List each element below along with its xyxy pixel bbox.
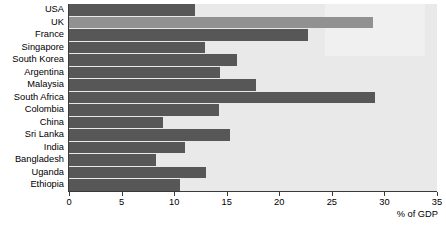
x-tick-label-10: 10 [169,197,179,207]
bar-colombia [69,104,219,116]
bar-row [69,179,437,191]
x-tick-label-30: 30 [379,197,389,207]
bar-sri-lanka [69,129,230,141]
bar-france [69,29,308,41]
x-tick-10 [174,192,175,196]
x-tick-30 [384,192,385,196]
y-label-singapore: Singapore [0,42,64,54]
bar-malaysia [69,79,256,91]
bar-uk [69,17,373,29]
bar-india [69,142,185,154]
bar-south-korea [69,54,237,66]
bar-row [69,67,437,79]
bar-row [69,117,437,129]
x-tick-0 [69,192,70,196]
bar-row [69,4,437,16]
y-label-malaysia: Malaysia [0,79,64,91]
bar-row [69,154,437,166]
bar-uganda [69,167,206,179]
y-axis-line [68,4,69,192]
y-label-china: China [0,117,64,129]
y-label-colombia: Colombia [0,104,64,116]
bar-row [69,167,437,179]
y-label-india: India [0,142,64,154]
x-axis-title: % of GDP [397,209,438,219]
bar-bangladesh [69,154,156,166]
x-tick-label-0: 0 [66,197,71,207]
y-label-argentina: Argentina [0,67,64,79]
bar-row [69,54,437,66]
bar-row [69,92,437,104]
x-axis-line [69,191,437,192]
y-axis-category-labels: USAUKFranceSingaporeSouth KoreaArgentina… [0,4,64,191]
x-tick-20 [279,192,280,196]
bar-row [69,42,437,54]
bar-china [69,117,163,129]
y-label-ethiopia: Ethiopia [0,179,64,191]
x-tick-25 [332,192,333,196]
bar-ethiopia [69,179,180,191]
plot-area [69,4,437,191]
x-tick-label-5: 5 [119,197,124,207]
y-label-bangladesh: Bangladesh [0,154,64,166]
bar-row [69,79,437,91]
bar-row [69,129,437,141]
y-label-south-africa: South Africa [0,92,64,104]
x-tick-label-35: 35 [432,197,442,207]
x-tick-35 [437,192,438,196]
x-tick-label-20: 20 [274,197,284,207]
x-tick-15 [227,192,228,196]
y-label-france: France [0,29,64,41]
bar-argentina [69,67,220,79]
bar-south-africa [69,92,375,104]
x-tick-5 [122,192,123,196]
bar-singapore [69,42,205,54]
y-label-uganda: Uganda [0,167,64,179]
y-label-south-korea: South Korea [0,54,64,66]
y-label-usa: USA [0,4,64,16]
x-tick-label-25: 25 [327,197,337,207]
bar-row [69,29,437,41]
bar-row [69,17,437,29]
y-label-sri-lanka: Sri Lanka [0,129,64,141]
bar-usa [69,4,195,16]
bar-chart: USAUKFranceSingaporeSouth KoreaArgentina… [0,0,446,228]
bar-row [69,142,437,154]
bar-row [69,104,437,116]
y-label-uk: UK [0,17,64,29]
x-tick-label-15: 15 [222,197,232,207]
